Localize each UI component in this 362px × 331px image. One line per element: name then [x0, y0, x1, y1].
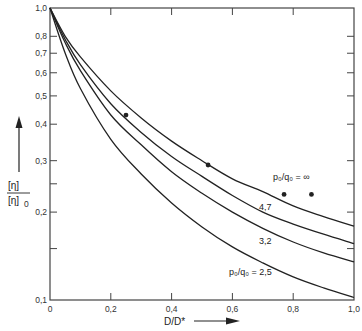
y-tick-label: 0,8 — [35, 31, 47, 41]
y-tick-label: 0,7 — [35, 48, 47, 58]
y-tick-label: 0,6 — [35, 68, 47, 78]
y-axis-ticks: 0,10,20,30,40,50,60,70,81,0 — [35, 3, 354, 305]
x-tick-label: 0,4 — [166, 304, 178, 314]
x-tick-label: 1,0 — [348, 304, 360, 314]
curve-series-3 — [50, 8, 354, 298]
x-axis-label: D/D* — [164, 316, 185, 327]
data-point — [309, 192, 314, 197]
curve-label-inf: p₀/q₀ = ∞ — [273, 172, 310, 182]
y-tick-label: 0,3 — [35, 156, 47, 166]
arrow-up-icon — [16, 116, 23, 128]
data-point — [206, 163, 211, 168]
x-axis-ticks: 00,20,40,60,81,0 — [48, 8, 361, 314]
x-tick-label: 0 — [48, 304, 53, 314]
curve-series-1 — [50, 8, 354, 244]
y-tick-label: 0,5 — [35, 91, 47, 101]
plot-border — [50, 8, 354, 300]
curves — [50, 8, 354, 298]
y-axis-denominator-sub: 0 — [24, 199, 29, 209]
y-tick-label: 0,1 — [35, 295, 47, 305]
data-point — [282, 192, 287, 197]
y-tick-label: 1,0 — [35, 3, 47, 13]
x-axis-title: D/D* — [164, 316, 240, 327]
plot-frame — [50, 8, 354, 300]
y-tick-label: 0,2 — [35, 207, 47, 217]
y-axis-numerator: [η] — [8, 180, 19, 191]
y-axis-title: [η] [η] 0 — [7, 116, 30, 209]
data-point — [124, 113, 129, 118]
x-tick-label: 0,8 — [287, 304, 299, 314]
curve-label-2-5: p₀/q₀ = 2,5 — [229, 267, 272, 277]
curve-label-4-7: 4,7 — [259, 202, 272, 212]
y-tick-label: 0,4 — [35, 119, 47, 129]
y-axis-denominator: [η] — [8, 195, 19, 206]
arrow-right-icon — [226, 318, 240, 325]
x-tick-label: 0,2 — [105, 304, 117, 314]
x-tick-label: 0,6 — [226, 304, 238, 314]
chart: 0,10,20,30,40,50,60,70,81,0 00,20,40,60,… — [0, 0, 362, 331]
curve-series-2 — [50, 8, 354, 262]
curve-label-3-2: 3,2 — [259, 236, 272, 246]
